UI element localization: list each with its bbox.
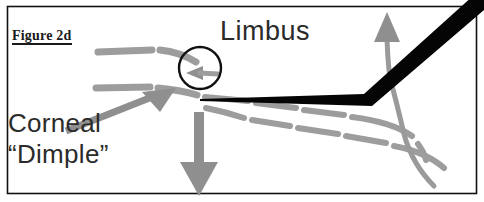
corneal-dimple-label-line2: “Dimple”: [8, 141, 109, 167]
figure-container: Figure 2d Limbus Corneal “Dimple”: [0, 0, 484, 202]
figure-id-label: Figure 2d: [12, 28, 72, 45]
corneal-dimple-label: Corneal “Dimple”: [8, 110, 109, 167]
corneal-dimple-label-line1: Corneal: [8, 108, 101, 138]
limbus-inner-tick: [200, 73, 218, 74]
limbus-label: Limbus: [220, 18, 310, 45]
down-arrow-shaft: [194, 112, 204, 164]
